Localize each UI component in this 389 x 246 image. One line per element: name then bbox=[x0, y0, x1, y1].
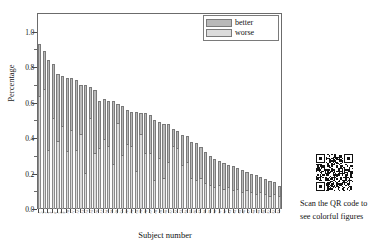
bar-segment-worse bbox=[236, 190, 239, 210]
bar-stack bbox=[268, 181, 271, 209]
bar-stack bbox=[232, 166, 235, 209]
bar-stack bbox=[241, 170, 244, 209]
bar-stack bbox=[75, 80, 78, 209]
bar-segment-better bbox=[79, 85, 82, 135]
bar-segment-better bbox=[273, 182, 276, 194]
bar-stack bbox=[195, 143, 198, 209]
bar-stack bbox=[204, 152, 207, 209]
bar-stack bbox=[126, 110, 129, 209]
bar-stack bbox=[250, 174, 253, 209]
bar-segment-better bbox=[103, 99, 106, 140]
bar-segment-better bbox=[70, 78, 73, 131]
bar-segment-better bbox=[245, 172, 248, 192]
bar-segment-worse bbox=[84, 174, 87, 209]
bar-segment-worse bbox=[213, 188, 216, 209]
bar-stack bbox=[103, 99, 106, 209]
bar-segment-worse bbox=[121, 156, 124, 209]
bar-segment-worse bbox=[241, 193, 244, 209]
bar-segment-worse bbox=[38, 97, 41, 209]
bar-segment-worse bbox=[167, 163, 170, 209]
bar-stack bbox=[259, 177, 262, 209]
bar-stack bbox=[158, 122, 161, 209]
bar-segment-worse bbox=[209, 186, 212, 209]
bar-segment-worse bbox=[232, 191, 235, 209]
bar-stack bbox=[181, 135, 184, 209]
bar-stack bbox=[79, 85, 82, 209]
bar-segment-worse bbox=[149, 154, 152, 209]
bar-stack bbox=[89, 87, 92, 209]
bar-segment-worse bbox=[250, 193, 253, 209]
bar-stack bbox=[107, 101, 110, 209]
bar-segment-better bbox=[61, 76, 64, 127]
bar-segment-worse bbox=[162, 179, 165, 209]
bar-segment-better bbox=[47, 60, 50, 150]
bar-segment-better bbox=[56, 74, 59, 141]
bar-segment-better bbox=[116, 104, 119, 124]
bar-stack bbox=[236, 168, 239, 209]
bar-segment-worse bbox=[103, 140, 106, 209]
qr-caption-line-1: Scan the QR code to bbox=[300, 198, 389, 211]
bar-segment-better bbox=[250, 174, 253, 194]
bar-segment-worse bbox=[222, 190, 225, 210]
bar-segment-better bbox=[176, 131, 179, 149]
legend-label-worse: worse bbox=[235, 29, 254, 37]
legend-item-worse: worse bbox=[206, 28, 276, 38]
bar-stack bbox=[218, 161, 221, 209]
bar-stack bbox=[56, 74, 59, 209]
bar-segment-better bbox=[107, 101, 110, 147]
bar-segment-better bbox=[209, 156, 212, 186]
bar-segment-worse bbox=[158, 159, 161, 209]
bar-stack bbox=[172, 129, 175, 209]
bar-segment-worse bbox=[186, 163, 189, 209]
bar-segment-worse bbox=[245, 191, 248, 209]
bar-stack bbox=[38, 44, 41, 209]
bar-segment-worse bbox=[278, 197, 281, 209]
bar-segment-better bbox=[218, 161, 221, 186]
qr-caption-line-2: see colorful figures bbox=[300, 211, 389, 224]
bar-segment-worse bbox=[130, 147, 133, 209]
bar-segment-better bbox=[232, 166, 235, 191]
bar-segment-worse bbox=[107, 147, 110, 209]
bar-segment-better bbox=[75, 80, 78, 151]
x-axis-tick-labels: 1234567891011121314151617181920212223242… bbox=[38, 213, 281, 231]
bar-segment-better bbox=[98, 101, 101, 149]
legend-item-better: better bbox=[206, 18, 276, 28]
bar-stack bbox=[139, 113, 142, 209]
bar-stack bbox=[153, 120, 156, 209]
bar-segment-worse bbox=[135, 172, 138, 209]
bar-stack bbox=[116, 104, 119, 209]
bar-segment-worse bbox=[56, 142, 59, 209]
bar-segment-worse bbox=[264, 195, 267, 209]
bar-stack bbox=[84, 85, 87, 209]
bar-segment-better bbox=[158, 122, 161, 159]
bar-stack bbox=[98, 101, 101, 209]
bar-segment-better bbox=[144, 113, 147, 154]
bar-segment-better bbox=[84, 85, 87, 174]
bar-segment-worse bbox=[144, 154, 147, 209]
bar-segment-worse bbox=[66, 152, 69, 209]
bar-segment-better bbox=[259, 177, 262, 193]
bar-stack bbox=[213, 159, 216, 209]
bar-stack bbox=[162, 124, 165, 209]
bar-stack bbox=[93, 90, 96, 209]
bar-segment-better bbox=[126, 110, 129, 145]
bar-segment-worse bbox=[181, 166, 184, 209]
bar-segment-better bbox=[222, 163, 225, 190]
bar-segment-worse bbox=[204, 184, 207, 209]
bar-segment-better bbox=[162, 124, 165, 179]
bar-segment-worse bbox=[172, 147, 175, 209]
bar-segment-worse bbox=[112, 165, 115, 209]
bar-segment-worse bbox=[259, 193, 262, 209]
bar-stack bbox=[273, 182, 276, 209]
bar-segment-worse bbox=[98, 149, 101, 209]
bar-segment-worse bbox=[139, 135, 142, 209]
bar-segment-better bbox=[278, 186, 281, 197]
bar-segment-worse bbox=[70, 131, 73, 209]
bar-segment-worse bbox=[93, 154, 96, 209]
x-axis-title: Subject number bbox=[100, 230, 230, 240]
bar-segment-worse bbox=[61, 127, 64, 209]
bar-stack bbox=[278, 186, 281, 209]
bar-segment-worse bbox=[126, 145, 129, 209]
bar-stack bbox=[66, 78, 69, 209]
legend-label-better: better bbox=[235, 19, 253, 27]
